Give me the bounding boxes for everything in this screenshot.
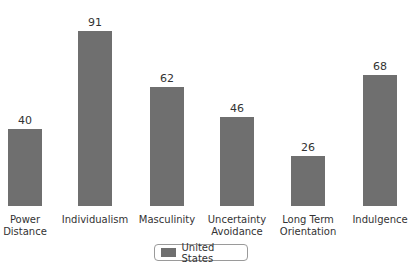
- value-label: 91: [65, 16, 125, 29]
- value-label: 46: [207, 102, 267, 115]
- category-label: Individualism: [55, 214, 135, 226]
- legend-swatch-icon: [161, 248, 176, 257]
- bar[interactable]: [150, 87, 184, 206]
- legend-item-united-states[interactable]: United States: [154, 244, 248, 261]
- legend-label: United States: [182, 242, 248, 264]
- bar[interactable]: [78, 31, 112, 206]
- bar[interactable]: [363, 75, 397, 206]
- value-label: 40: [0, 114, 55, 127]
- value-label: 68: [350, 60, 410, 73]
- bar[interactable]: [291, 156, 325, 206]
- bar[interactable]: [220, 117, 254, 206]
- bar[interactable]: [8, 129, 42, 206]
- category-label: UncertaintyAvoidance: [197, 214, 277, 238]
- category-label: Masculinity: [127, 214, 207, 226]
- value-label: 26: [278, 141, 338, 154]
- category-label: Indulgence: [340, 214, 415, 226]
- category-label: Long TermOrientation: [268, 214, 348, 238]
- bar-chart: 40PowerDistance91Individualism62Masculin…: [0, 0, 415, 265]
- value-label: 62: [137, 72, 197, 85]
